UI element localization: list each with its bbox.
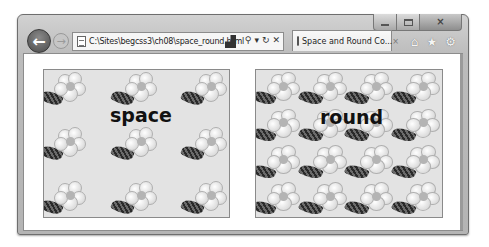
caption-buttons: × — [373, 14, 462, 31]
flower-tile — [185, 125, 229, 163]
flower-tile — [349, 180, 396, 217]
minimize-icon — [381, 24, 389, 26]
search-icon[interactable]: ⚲ — [245, 35, 252, 45]
browser-window: × ← → C:\Sites\begcss3\ch08\space_round.… — [17, 14, 469, 235]
flower-tile — [44, 125, 88, 163]
tools-gear-icon[interactable]: ⚙ — [445, 35, 456, 49]
address-tools: ⚲ ▾ ↻ ✕ — [245, 35, 280, 45]
flower-tile — [349, 70, 396, 107]
flower-tile — [185, 70, 229, 108]
home-icon[interactable]: ⌂ — [411, 35, 419, 49]
flower-tile — [185, 179, 229, 217]
maximize-icon — [404, 19, 413, 26]
flower-tile — [44, 179, 88, 217]
flower-tile — [256, 180, 303, 217]
minimize-button[interactable] — [373, 14, 397, 31]
flower-tile — [256, 70, 303, 107]
dropdown-icon[interactable]: ▾ — [254, 35, 259, 45]
favorites-star-icon[interactable]: ★ — [426, 35, 437, 49]
flower-tile — [115, 70, 159, 108]
tab-label: Space and Round Co... — [302, 37, 392, 46]
tab-close-icon[interactable]: × — [392, 37, 399, 46]
arrow-left-icon: ← — [32, 32, 45, 51]
command-toolbar: ⌂ ★ ⚙ — [411, 35, 456, 49]
flower-tile — [115, 125, 159, 163]
flower-tile — [396, 107, 443, 144]
flower-tile — [44, 70, 88, 108]
flower-tile — [396, 180, 443, 217]
flower-tile — [256, 107, 303, 144]
flower-tile — [349, 144, 396, 181]
page-icon — [77, 36, 86, 47]
tab-active[interactable]: Space and Round Co... × — [292, 30, 392, 51]
flower-tile — [256, 144, 303, 181]
flower-tile — [396, 70, 443, 107]
url-text[interactable]: C:\Sites\begcss3\ch08\space_round.html — [89, 37, 244, 46]
address-bar[interactable]: C:\Sites\begcss3\ch08\space_round.html ⚲… — [72, 32, 284, 51]
space-label: space — [110, 104, 172, 126]
round-demo-box: round — [255, 69, 443, 218]
close-icon: × — [436, 17, 444, 27]
stop-icon[interactable]: ✕ — [272, 35, 280, 45]
flower-tile — [115, 179, 159, 217]
arrow-right-icon: → — [56, 35, 65, 48]
refresh-icon[interactable]: ↻ — [262, 35, 270, 45]
flower-tile — [303, 70, 350, 107]
tab-favicon-icon — [297, 36, 299, 46]
maximize-button[interactable] — [397, 14, 420, 31]
forward-button[interactable]: → — [53, 33, 69, 49]
flower-tile — [303, 180, 350, 217]
flower-tile — [396, 144, 443, 181]
flower-tile — [303, 144, 350, 181]
page-content: space round — [23, 53, 463, 231]
back-button[interactable]: ← — [27, 29, 51, 53]
close-button[interactable]: × — [420, 14, 462, 31]
round-label: round — [320, 106, 383, 128]
space-demo-box: space — [43, 69, 230, 218]
scrollbar-edge[interactable] — [460, 54, 463, 230]
